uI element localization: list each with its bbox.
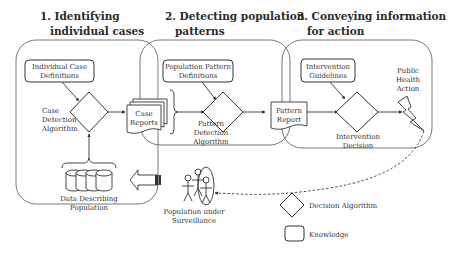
section-2-title: 2. Detecting population patterns <box>165 10 305 37</box>
case-reports-documents: Case Reports <box>127 99 167 133</box>
svg-text:Detection: Detection <box>194 129 229 137</box>
svg-text:Algorithm: Algorithm <box>192 138 229 146</box>
legend-knowledge: Knowledge <box>309 231 348 239</box>
data-brace <box>62 158 116 168</box>
svg-text:Algorithm: Algorithm <box>41 125 78 133</box>
section-1-title: 1. Identifying individual cases <box>40 10 144 37</box>
svg-text:individual cases: individual cases <box>50 25 144 37</box>
svg-text:Population: Population <box>70 204 108 212</box>
svg-text:Definitions: Definitions <box>40 72 79 80</box>
svg-text:Decision: Decision <box>343 142 374 150</box>
svg-text:Guidelines: Guidelines <box>309 72 347 80</box>
svg-text:Case: Case <box>42 107 59 115</box>
svg-text:1. Identifying: 1. Identifying <box>40 10 120 22</box>
svg-text:2. Detecting population: 2. Detecting population <box>165 10 305 22</box>
svg-text:Population under: Population under <box>163 208 225 216</box>
pattern-report-document: Pattern Report <box>271 102 307 129</box>
lightning-bolt-icon <box>398 96 424 131</box>
database-cylinders-icon <box>66 170 112 191</box>
svg-text:Individual Case: Individual Case <box>32 63 87 71</box>
svg-text:Case: Case <box>135 110 152 118</box>
svg-text:Intervention: Intervention <box>336 133 380 141</box>
public-health-action-label: Public Health Action <box>396 67 421 93</box>
individual-case-definitions-box: Individual Case Definitions <box>25 60 94 82</box>
surveillance-diagram: 1. Identifying individual cases 2. Detec… <box>0 0 449 256</box>
legend-decision-algorithm: Decision Algorithm <box>309 202 378 210</box>
data-describing-population-label: Data Describing Population <box>60 195 118 212</box>
svg-text:3. Conveying information: 3. Conveying information <box>297 10 447 22</box>
legend-knowledge-box-icon <box>285 226 304 241</box>
svg-text:Pattern: Pattern <box>198 120 225 128</box>
svg-text:Action: Action <box>396 85 420 93</box>
pattern-detection-algorithm-label: Pattern Detection Algorithm <box>192 120 229 146</box>
svg-text:for action: for action <box>307 25 365 37</box>
svg-text:Surveillance: Surveillance <box>172 217 216 225</box>
arrow-pattern-definitions-to-pattern-detection <box>202 82 216 100</box>
svg-text:Data Describing: Data Describing <box>60 195 118 203</box>
population-figures-icon <box>182 167 214 205</box>
svg-text:Definitions: Definitions <box>179 72 218 80</box>
population-pattern-definitions-box: Population Pattern Definitions <box>163 60 233 82</box>
svg-text:Reports: Reports <box>130 119 158 127</box>
arrow-definitions-to-case-detection <box>62 82 79 101</box>
intervention-guidelines-box: Intervention Guidelines <box>301 59 355 82</box>
svg-text:Population Pattern: Population Pattern <box>165 63 232 71</box>
svg-text:Report: Report <box>277 116 301 124</box>
case-reports-brace <box>170 90 178 134</box>
hollow-arrow-population-to-data <box>130 170 161 190</box>
population-under-surveillance-label: Population under Surveillance <box>163 208 225 225</box>
section-3-title: 3. Conveying information for action <box>297 10 447 37</box>
legend: Decision Algorithm Knowledge <box>280 193 378 241</box>
svg-text:Detection: Detection <box>42 116 77 124</box>
svg-text:patterns: patterns <box>175 25 225 37</box>
legend-decision-diamond-icon <box>280 193 304 217</box>
intervention-decision-diamond <box>336 92 378 132</box>
intervention-decision-label: Intervention Decision <box>336 133 380 150</box>
svg-text:Health: Health <box>396 76 420 84</box>
svg-text:Public: Public <box>397 67 419 75</box>
svg-text:Intervention: Intervention <box>306 63 350 71</box>
dashed-arrow-action-to-population <box>215 131 424 194</box>
arrow-guidelines-to-intervention-decision <box>330 82 345 99</box>
svg-text:Pattern: Pattern <box>276 107 303 115</box>
